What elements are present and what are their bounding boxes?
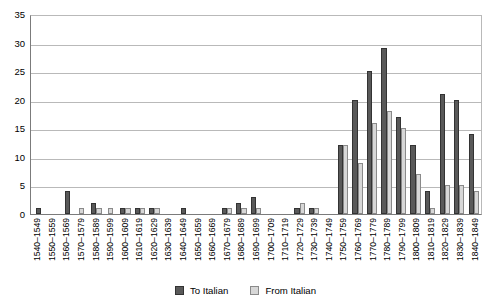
x-axis-tick-label: 1700–1709 [267, 218, 276, 261]
bar [125, 208, 130, 214]
bar [474, 191, 479, 214]
bar [96, 208, 101, 214]
x-axis-tick: 1620–1629 [147, 217, 162, 279]
bar-group [307, 16, 322, 214]
bar-group [31, 16, 46, 214]
bar [36, 208, 41, 214]
x-axis-tick: 1680–1689 [234, 217, 249, 279]
x-axis-tick-label: 1560–1569 [62, 218, 71, 261]
x-axis-tick: 1730–1739 [307, 217, 322, 279]
x-axis-tick-label: 1710–1719 [281, 218, 290, 261]
x-axis-tick: 1660–1669 [205, 217, 220, 279]
legend-item[interactable]: To Italian [175, 286, 228, 296]
bar [387, 111, 392, 214]
bar [65, 191, 70, 214]
bar [79, 208, 84, 214]
bar-group [292, 16, 307, 214]
x-axis-tick-label: 1630–1639 [164, 218, 173, 261]
x-axis-tick: 1650–1659 [190, 217, 205, 279]
bar-group [205, 16, 220, 214]
bar-group [46, 16, 61, 214]
bar-group [466, 16, 481, 214]
x-axis-tick-label: 1800–1809 [412, 218, 421, 261]
x-axis-tick-label: 1640–1649 [179, 218, 188, 261]
y-axis-tick-label: 0 [20, 210, 25, 220]
legend-item[interactable]: From Italian [250, 286, 316, 296]
x-axis-tick-label: 1680–1689 [237, 218, 246, 261]
x-axis-tick-label: 1590–1599 [106, 218, 115, 261]
y-axis-tick-label: 5 [20, 182, 25, 192]
x-axis-tick: 1600–1609 [117, 217, 132, 279]
bar [372, 123, 377, 214]
x-axis-tick-label: 1570–1579 [77, 218, 86, 261]
x-axis-tick-label: 1830–1839 [456, 218, 465, 261]
bar-group [75, 16, 90, 214]
bar [300, 203, 305, 214]
bar-group [423, 16, 438, 214]
bar [401, 128, 406, 214]
x-axis-tick: 1750–1759 [336, 217, 351, 279]
x-axis-tick: 1780–1789 [380, 217, 395, 279]
bar-group [379, 16, 394, 214]
bar-group [365, 16, 380, 214]
x-axis-tick-label: 1810–1819 [427, 218, 436, 261]
bar [227, 208, 232, 214]
x-axis-tick-label: 1820–1829 [441, 218, 450, 261]
x-axis-tick-label: 1760–1769 [354, 218, 363, 261]
bar-group [220, 16, 235, 214]
x-axis-tick-label: 1550–1559 [48, 218, 57, 261]
x-axis-tick-label: 1670–1679 [223, 218, 232, 261]
x-axis-tick: 1810–1819 [424, 217, 439, 279]
x-axis-tick-label: 1770–1779 [369, 218, 378, 261]
x-axis-tick: 1710–1719 [278, 217, 293, 279]
x-axis-tick: 1820–1829 [438, 217, 453, 279]
bar-group [321, 16, 336, 214]
x-axis-tick-label: 1540–1549 [33, 218, 42, 261]
x-axis-tick: 1720–1729 [292, 217, 307, 279]
legend-item-label: From Italian [265, 286, 316, 296]
x-axis-tick: 1840–1849 [467, 217, 482, 279]
x-axis-tick: 1760–1769 [351, 217, 366, 279]
bar [358, 163, 363, 214]
x-axis-tick: 1550–1559 [45, 217, 60, 279]
x-axis-tick: 1690–1699 [249, 217, 264, 279]
x-axis-tick: 1540–1549 [30, 217, 45, 279]
x-axis-tick-label: 1750–1759 [339, 218, 348, 261]
bar [140, 208, 145, 214]
bar-group [176, 16, 191, 214]
bar-group [336, 16, 351, 214]
y-axis-tick-label: 35 [14, 10, 25, 20]
plot-area [30, 15, 482, 215]
bar-group [191, 16, 206, 214]
x-axis-tick: 1670–1679 [220, 217, 235, 279]
dark-square-swatch [175, 286, 184, 295]
y-axis: 05101520253035 [0, 0, 28, 225]
x-axis-tick: 1630–1639 [161, 217, 176, 279]
bar-group [452, 16, 467, 214]
bar-group [350, 16, 365, 214]
bar-group [104, 16, 119, 214]
x-axis-tick-label: 1620–1629 [150, 218, 159, 261]
x-axis-tick: 1580–1589 [88, 217, 103, 279]
bar [241, 208, 246, 214]
bar-chart: 05101520253035 1540–15491550–15591560–15… [0, 0, 491, 305]
bar [343, 145, 348, 214]
x-axis-tick: 1590–1599 [103, 217, 118, 279]
x-axis-tick-label: 1780–1789 [383, 218, 392, 261]
x-axis-tick: 1570–1579 [74, 217, 89, 279]
y-axis-tick-label: 15 [14, 125, 25, 135]
x-axis-tick-label: 1580–1589 [92, 218, 101, 261]
bar-group [89, 16, 104, 214]
bar [108, 208, 113, 214]
bar [416, 174, 421, 214]
x-axis-tick: 1610–1619 [132, 217, 147, 279]
bar-group [60, 16, 75, 214]
x-axis-tick-label: 1610–1619 [135, 218, 144, 261]
x-axis-tick-label: 1650–1659 [194, 218, 203, 261]
bar [445, 185, 450, 214]
x-axis-tick: 1740–1749 [322, 217, 337, 279]
y-axis-tick-label: 10 [14, 153, 25, 163]
x-axis-tick: 1830–1839 [453, 217, 468, 279]
x-axis-tick: 1700–1709 [263, 217, 278, 279]
bar-group [437, 16, 452, 214]
